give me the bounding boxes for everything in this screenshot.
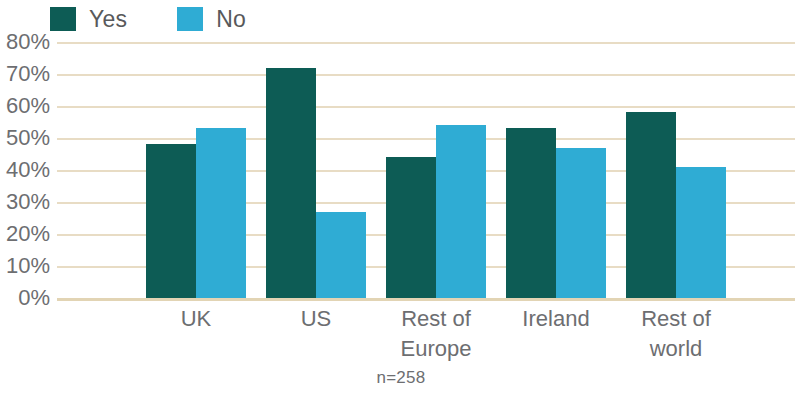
bar-no [196, 128, 246, 298]
y-axis: 80%70%60%50%40%30%20%10%0% [0, 42, 50, 298]
plot-area [57, 42, 795, 298]
legend-label-yes: Yes [89, 8, 127, 31]
x-axis-tick-label: Rest of world [596, 304, 756, 363]
bar-yes [626, 112, 676, 298]
y-axis-tick-label: 50% [0, 127, 50, 149]
y-axis-tick-label: 40% [0, 159, 50, 181]
bar-group [626, 42, 726, 298]
y-axis-tick-label: 0% [0, 287, 50, 309]
axis-baseline [57, 298, 795, 301]
legend-entry-yes: Yes [50, 7, 127, 31]
bar-chart: Yes No 80%70%60%50%40%30%20%10%0% UKUSRe… [0, 0, 802, 399]
legend-label-no: No [216, 8, 246, 31]
y-axis-tick-label: 80% [0, 31, 50, 53]
x-axis: UKUSRest of EuropeIrelandRest of world [57, 304, 795, 364]
bar-group [146, 42, 246, 298]
bar-yes [506, 128, 556, 298]
bar-yes [386, 157, 436, 298]
legend-swatch-yes-icon [50, 7, 76, 31]
y-axis-tick-label: 10% [0, 255, 50, 277]
y-axis-tick-label: 60% [0, 95, 50, 117]
bar-yes [146, 144, 196, 298]
sample-size-annotation: n=258 [0, 368, 802, 388]
bar-group [266, 42, 366, 298]
bars-layer [57, 42, 795, 298]
bar-no [316, 212, 366, 298]
bar-yes [266, 68, 316, 298]
bar-group [506, 42, 606, 298]
bar-no [436, 125, 486, 298]
bar-group [386, 42, 486, 298]
y-axis-tick-label: 70% [0, 63, 50, 85]
y-axis-tick-label: 20% [0, 223, 50, 245]
legend-entry-no: No [177, 7, 246, 31]
bar-no [556, 148, 606, 298]
chart-legend: Yes No [50, 5, 246, 33]
y-axis-tick-label: 30% [0, 191, 50, 213]
legend-swatch-no-icon [177, 7, 203, 31]
bar-no [676, 167, 726, 298]
